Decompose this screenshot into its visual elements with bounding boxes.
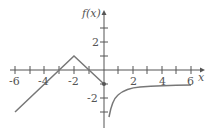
- x-axis-label: x: [198, 72, 204, 83]
- hyperbolic-curve: [109, 85, 191, 117]
- y-tick-label: 2: [92, 37, 99, 48]
- closed-dot-marker: [102, 82, 106, 86]
- x-tick-label: 4: [159, 76, 166, 87]
- y-axis-label: f(x): [82, 8, 101, 19]
- x-tick-label: -2: [68, 76, 79, 87]
- x-tick-label: -6: [9, 76, 20, 87]
- y-tick-label: -2: [87, 93, 98, 104]
- function-graph: [0, 0, 214, 132]
- x-tick-label: 6: [187, 76, 194, 87]
- y-axis-arrow-icon: [102, 10, 107, 15]
- x-tick-label: -4: [38, 76, 49, 87]
- x-tick-label: 2: [130, 76, 137, 87]
